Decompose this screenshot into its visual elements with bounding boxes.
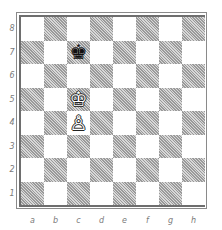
square-c5[interactable]: ♔ [67,88,90,112]
square-d1[interactable] [90,182,113,206]
white-pawn-icon[interactable]: ♙ [70,113,88,133]
square-g5[interactable] [159,88,182,112]
square-c4[interactable]: ♙ [67,111,90,135]
square-f7[interactable] [136,41,159,65]
white-king-icon[interactable]: ♔ [70,89,88,109]
square-h6[interactable] [182,64,205,88]
square-c3[interactable] [67,135,90,159]
square-f6[interactable] [136,64,159,88]
file-label-c: c [67,216,90,225]
chess-board[interactable]: ♚♔♙ [21,17,205,205]
square-h3[interactable] [182,135,205,159]
square-b1[interactable] [44,182,67,206]
square-e1[interactable] [113,182,136,206]
black-king-icon[interactable]: ♚ [70,42,88,62]
square-h8[interactable] [182,17,205,41]
rank-label-2: 2 [8,165,16,174]
square-g7[interactable] [159,41,182,65]
square-g2[interactable] [159,158,182,182]
square-f5[interactable] [136,88,159,112]
rank-label-4: 4 [8,118,16,127]
square-a6[interactable] [21,64,44,88]
square-a1[interactable] [21,182,44,206]
square-e6[interactable] [113,64,136,88]
square-f8[interactable] [136,17,159,41]
square-c8[interactable] [67,17,90,41]
square-b7[interactable] [44,41,67,65]
rank-label-7: 7 [8,48,16,57]
file-label-b: b [44,216,67,225]
square-a5[interactable] [21,88,44,112]
square-d7[interactable] [90,41,113,65]
square-f1[interactable] [136,182,159,206]
square-c7[interactable]: ♚ [67,41,90,65]
square-f2[interactable] [136,158,159,182]
square-h2[interactable] [182,158,205,182]
square-d3[interactable] [90,135,113,159]
square-c1[interactable] [67,182,90,206]
rank-label-5: 5 [8,95,16,104]
square-a2[interactable] [21,158,44,182]
square-e7[interactable] [113,41,136,65]
square-c2[interactable] [67,158,90,182]
square-b5[interactable] [44,88,67,112]
square-g4[interactable] [159,111,182,135]
rank-label-3: 3 [8,142,16,151]
square-e2[interactable] [113,158,136,182]
square-b4[interactable] [44,111,67,135]
square-h5[interactable] [182,88,205,112]
rank-label-1: 1 [8,189,16,198]
file-label-h: h [182,216,205,225]
square-d5[interactable] [90,88,113,112]
square-c6[interactable] [67,64,90,88]
square-b8[interactable] [44,17,67,41]
square-e3[interactable] [113,135,136,159]
file-label-f: f [136,216,159,225]
file-label-e: e [113,216,136,225]
square-a8[interactable] [21,17,44,41]
square-d4[interactable] [90,111,113,135]
square-b3[interactable] [44,135,67,159]
square-h7[interactable] [182,41,205,65]
square-d2[interactable] [90,158,113,182]
square-h1[interactable] [182,182,205,206]
file-label-g: g [159,216,182,225]
square-f4[interactable] [136,111,159,135]
square-e5[interactable] [113,88,136,112]
square-a4[interactable] [21,111,44,135]
square-h4[interactable] [182,111,205,135]
square-g1[interactable] [159,182,182,206]
square-b2[interactable] [44,158,67,182]
square-a7[interactable] [21,41,44,65]
rank-label-8: 8 [8,24,16,33]
square-d8[interactable] [90,17,113,41]
square-e4[interactable] [113,111,136,135]
square-b6[interactable] [44,64,67,88]
square-a3[interactable] [21,135,44,159]
file-label-a: a [21,216,44,225]
square-f3[interactable] [136,135,159,159]
rank-label-6: 6 [8,71,16,80]
square-g8[interactable] [159,17,182,41]
square-g3[interactable] [159,135,182,159]
square-e8[interactable] [113,17,136,41]
file-label-d: d [90,216,113,225]
square-d6[interactable] [90,64,113,88]
square-g6[interactable] [159,64,182,88]
